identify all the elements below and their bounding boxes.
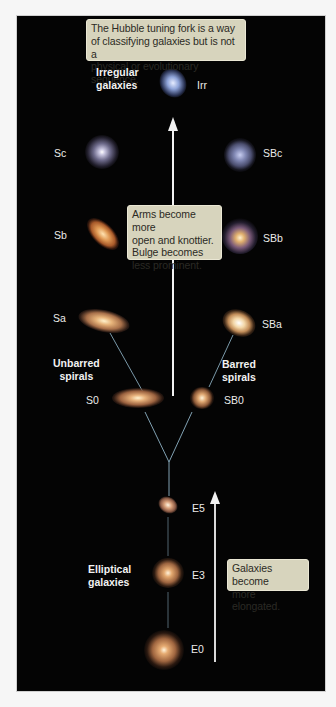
galaxy-sb0 [190,387,214,409]
label-sb: Sb [54,229,67,241]
galaxy-e0 [144,630,184,670]
spiral-arms-note-line-1: Arms become more [132,208,217,234]
elongation-note-line-1: Galaxies become [232,562,304,588]
unbarred-spirals-label: Unbarred spirals [53,357,100,383]
elongation-note: Galaxies become more elongated. [227,559,309,591]
tuning-fork-note-line-2: of classifying galaxies but is not a [91,35,241,61]
galaxy-e3 [152,558,184,588]
tuning-fork-note-line-1: The Hubble tuning fork is a way [91,22,241,35]
galaxy-sc [85,135,119,169]
elliptical-galaxies-label: Elliptical galaxies [88,563,131,589]
spiral-arms-note-line-4: less prominent. [132,259,217,272]
label-sa: Sa [53,312,66,324]
label-s0: S0 [86,394,99,406]
galaxy-s0 [112,388,164,408]
label-sbb: SBb [263,232,283,244]
label-e0: E0 [191,643,204,655]
elongation-note-line-2: more elongated. [232,588,304,614]
irregular-galaxies-label: Irregular galaxies [96,66,139,92]
galaxy-sbb [222,218,258,254]
label-sba: SBa [262,318,282,330]
label-sc: Sc [54,147,66,159]
fork-left-line [145,412,169,462]
label-sbc: SBc [263,147,282,159]
label-irr: Irr [197,79,207,91]
spiral-arms-note-line-2: open and knottier. [132,234,217,247]
central-arrow-head [168,117,178,131]
label-e3: E3 [192,569,205,581]
elongation-arrow-head [210,491,220,504]
label-sb0: SB0 [224,394,244,406]
label-e5: E5 [192,502,205,514]
spiral-arms-note-line-3: Bulge becomes [132,246,217,259]
spiral-arms-note: Arms become more open and knottier. Bulg… [127,205,222,260]
fork-right-line [169,412,192,462]
unbarred-diagonal-line [110,333,143,392]
tuning-fork-note: The Hubble tuning fork is a way of class… [86,19,246,61]
barred-spirals-label: Barred spirals [222,358,256,384]
galaxy-sbc [224,138,256,172]
